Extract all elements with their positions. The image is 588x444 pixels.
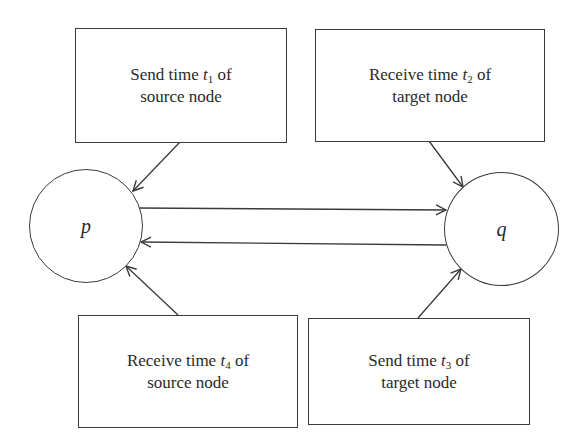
box-send-time-t1: Send time t1 of source node (75, 28, 287, 143)
box-line-1: Receive time t4 of (127, 350, 249, 372)
box-line-1: Send time t3 of (368, 350, 469, 372)
diagram-canvas: Send time t1 of source node Receive time… (0, 0, 588, 444)
edge-q-to-p (141, 242, 446, 245)
box-line-2: target node (392, 86, 468, 108)
box-line-2: target node (381, 372, 457, 394)
node-q: q (444, 172, 559, 286)
edge-send-t1-to-p (133, 142, 180, 191)
node-p-label: p (81, 215, 91, 238)
box-receive-time-t2: Receive time t2 of target node (315, 29, 545, 142)
box-line-1: Receive time t2 of (369, 64, 491, 86)
edge-send-t3-to-q (418, 269, 461, 318)
box-send-time-t3: Send time t3 of target node (308, 318, 530, 425)
node-q-label: q (497, 218, 507, 241)
edge-receive-t4-to-p (126, 266, 178, 315)
node-p: p (29, 169, 143, 283)
box-line-2: source node (140, 86, 222, 108)
box-line-1: Send time t1 of (130, 64, 231, 86)
box-line-2: source node (147, 372, 229, 394)
box-receive-time-t4: Receive time t4 of source node (78, 315, 298, 428)
edge-p-to-q (137, 208, 446, 210)
edge-receive-t2-to-q (429, 141, 463, 187)
